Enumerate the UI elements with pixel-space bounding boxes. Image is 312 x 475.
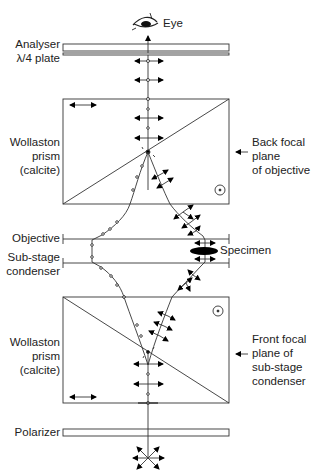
back-focal-label-3: of objective — [252, 164, 310, 177]
wollaston-bottom-label-1: Wollaston — [10, 336, 60, 349]
back-focal-label-1: Back focal — [252, 136, 305, 149]
objective-lens — [63, 234, 229, 244]
substage-label-1: Sub-stage — [8, 251, 60, 264]
polarization-arrows-top — [135, 60, 163, 82]
out-of-plane-symbol-bottom — [213, 306, 223, 316]
wollaston-top-label-2: prism — [32, 150, 60, 163]
prism-bottom-diagonal — [63, 297, 229, 403]
front-focal-label-2: plane of — [252, 347, 293, 360]
wollaston-top-label-1: Wollaston — [10, 136, 60, 149]
quarter-wave-plate-label: λ/4 plate — [17, 52, 60, 65]
analyser-plate — [63, 44, 229, 51]
eye-label: Eye — [163, 17, 183, 30]
out-of-plane-symbol-top — [215, 185, 225, 195]
wollaston-top-label-3: (calcite) — [20, 164, 60, 177]
quarter-wave-plate — [63, 53, 229, 55]
substage-label-2: condenser — [6, 265, 60, 278]
specimen-label: Specimen — [220, 244, 271, 257]
eye-icon — [132, 13, 158, 30]
substage-condenser-lens — [63, 258, 229, 268]
front-focal-label-4: condenser — [252, 375, 306, 388]
wollaston-bottom-label-3: (calcite) — [20, 364, 60, 377]
analyser-label: Analyser — [15, 38, 60, 51]
wollaston-bottom-label-2: prism — [32, 350, 60, 363]
polarizer-label: Polarizer — [15, 426, 60, 439]
ray-right — [148, 152, 205, 365]
specimen-ellipse — [190, 247, 218, 255]
back-focal-label-2: plane — [252, 150, 280, 163]
polarizer-plate — [63, 429, 229, 436]
front-focal-label-3: sub-stage — [252, 361, 303, 374]
unpolarized-light-icon — [133, 447, 164, 469]
front-focal-label-1: Front focal — [252, 333, 306, 346]
objective-label: Objective — [12, 232, 60, 245]
